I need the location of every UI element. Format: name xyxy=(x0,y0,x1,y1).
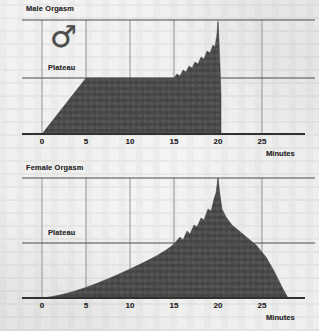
male-xtick-5: 5 xyxy=(77,137,95,146)
female-xtick-0: 0 xyxy=(33,301,51,310)
scanned-page: Male Orgasm Plateau ♂ 0 5 10 15 20 25 Mi… xyxy=(0,0,319,331)
female-response-area xyxy=(42,178,288,298)
female-x-axis-label: Minutes xyxy=(266,313,295,322)
male-xtick-0: 0 xyxy=(33,137,51,146)
female-xtick-5: 5 xyxy=(77,301,95,310)
male-xtick-10: 10 xyxy=(121,137,139,146)
female-orgasm-top-label: Female Orgasm xyxy=(26,163,83,172)
male-xtick-25: 25 xyxy=(253,137,271,146)
female-xtick-15: 15 xyxy=(165,301,183,310)
female-xtick-25: 25 xyxy=(253,301,271,310)
female-xtick-20: 20 xyxy=(209,301,227,310)
male-orgasm-chart: Male Orgasm Plateau ♂ 0 5 10 15 20 25 Mi… xyxy=(0,0,319,165)
female-xtick-10: 10 xyxy=(121,301,139,310)
male-x-axis-label: Minutes xyxy=(266,149,295,158)
male-plateau-label: Plateau xyxy=(48,63,75,72)
male-xtick-15: 15 xyxy=(165,137,183,146)
mars-symbol-icon: ♂ xyxy=(50,22,77,52)
male-orgasm-top-label: Male Orgasm xyxy=(26,4,74,13)
male-xtick-20: 20 xyxy=(209,137,227,146)
female-orgasm-chart: Female Orgasm Plateau ♀ 0 5 10 15 20 25 … xyxy=(0,165,319,331)
female-plateau-label: Plateau xyxy=(48,228,75,237)
